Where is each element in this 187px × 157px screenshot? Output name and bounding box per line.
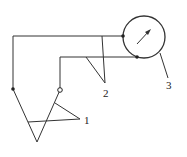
junction-dot-meter-bottom (135, 55, 139, 59)
thermocouple-2 (86, 36, 105, 83)
label-1: 1 (84, 114, 90, 126)
thermocouple-1 (13, 89, 60, 142)
open-terminal (58, 88, 63, 93)
junction-dot-meter-top (121, 34, 125, 38)
label-3: 3 (166, 79, 172, 91)
thermocouple-circuit-diagram: 1 2 3 (0, 0, 187, 157)
outer-wire (13, 36, 123, 89)
leader-line-1b (55, 103, 80, 119)
leader-line-1a (28, 119, 80, 122)
label-2: 2 (103, 87, 109, 99)
leader-line-3 (160, 53, 168, 78)
junction-dot-left (11, 87, 15, 91)
